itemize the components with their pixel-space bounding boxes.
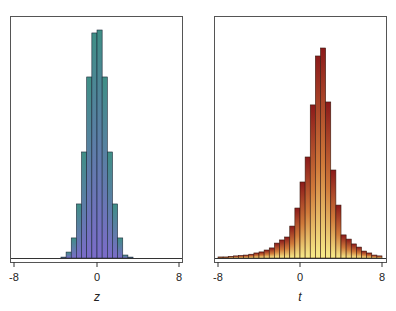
histogram-bar (321, 48, 326, 258)
histogram-bar (118, 238, 123, 258)
x-axis-z: -8 0 8 z (9, 262, 182, 304)
histogram-bar (102, 77, 107, 258)
histogram-bar (269, 248, 274, 258)
tick-label: -8 (9, 271, 19, 283)
histogram-bar (295, 208, 300, 258)
histogram-bar (249, 254, 254, 258)
histogram-bar (218, 257, 223, 258)
histogram-bar (372, 255, 377, 258)
histogram-bar (92, 33, 97, 258)
histogram-bar (76, 204, 81, 258)
histogram-bar (336, 205, 341, 258)
histogram-bar (305, 157, 310, 258)
tick-label: 0 (297, 271, 303, 283)
histogram-bar (61, 257, 66, 258)
histogram-bar (300, 182, 305, 258)
histogram-bar (87, 77, 92, 258)
histogram-bar (233, 256, 238, 258)
histogram-bar (351, 244, 356, 258)
x-axis-t: -8 0 8 t (213, 262, 385, 304)
histogram-bar (254, 253, 259, 258)
histogram-bar (97, 30, 102, 258)
histogram-bar (356, 247, 361, 258)
histogram-bar (331, 170, 336, 258)
x-axis-label-z: z (93, 290, 100, 304)
histogram-bar (82, 152, 87, 258)
histogram-bar (290, 226, 295, 258)
x-axis-label-t: t (298, 290, 302, 304)
histogram-bars-z (61, 30, 133, 258)
histogram-bar (346, 239, 351, 258)
histogram-bar (274, 243, 279, 258)
histogram-bar (239, 255, 244, 258)
histogram-bar (310, 105, 315, 258)
histogram-bar (367, 253, 372, 258)
tick-label: 8 (176, 271, 182, 283)
histogram-bar (341, 235, 346, 258)
histogram-bar (362, 251, 367, 258)
tick-label: -8 (213, 271, 223, 283)
histogram-bar (228, 256, 233, 258)
histogram-bar (315, 56, 320, 258)
histogram-bar (264, 250, 269, 258)
histogram-bar (280, 240, 285, 258)
histogram-figure: -8 0 8 z -8 0 8 t (0, 0, 396, 311)
histogram-bar (128, 257, 133, 258)
histogram-bar (285, 237, 290, 258)
panel-z: -8 0 8 z (9, 17, 182, 305)
histogram-bar (123, 255, 128, 258)
histogram-bar (112, 204, 117, 258)
histogram-bars-t (218, 48, 382, 258)
histogram-bar (107, 152, 112, 258)
tick-label: 0 (94, 271, 100, 283)
panel-t: -8 0 8 t (213, 17, 386, 305)
histogram-bar (326, 102, 331, 258)
histogram-bar (223, 257, 228, 258)
histogram-bar (71, 238, 76, 258)
tick-label: 8 (379, 271, 385, 283)
histogram-bar (66, 252, 71, 258)
histogram-bar (244, 255, 249, 258)
histogram-bar (259, 252, 264, 258)
histogram-bar (377, 256, 382, 258)
